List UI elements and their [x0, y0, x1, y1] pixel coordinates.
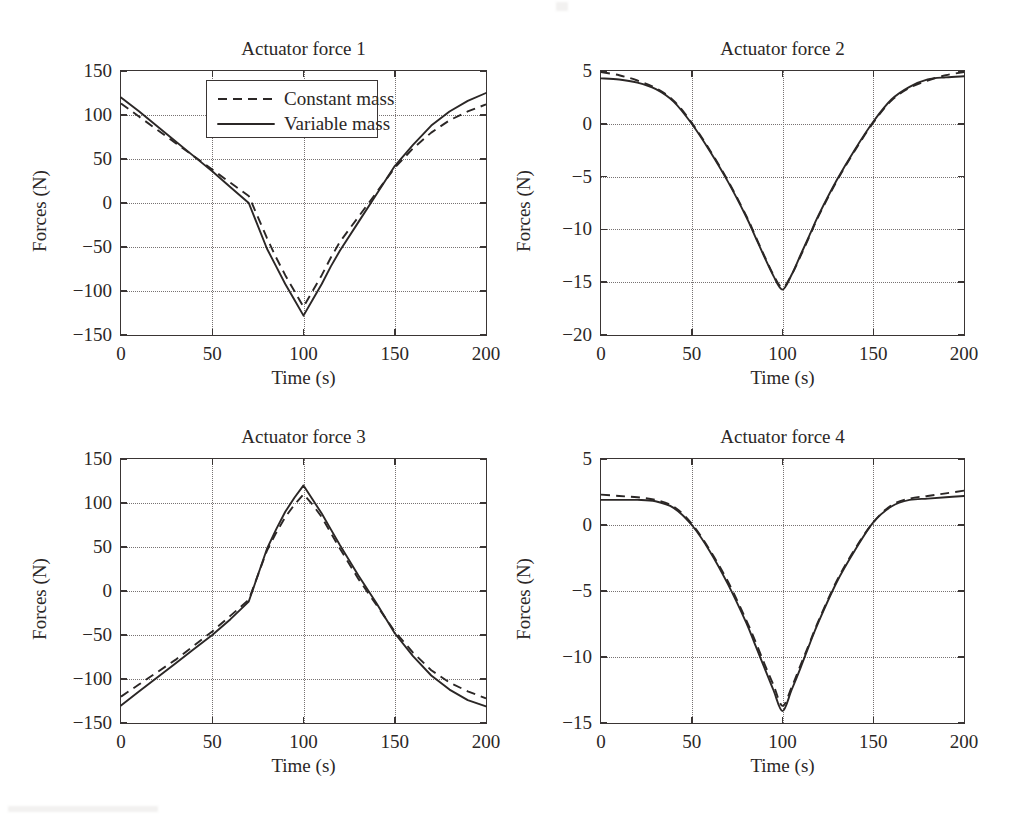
series-layer: [121, 459, 486, 723]
subplot-actuator-force-4: Actuator force 4 Forces (N) Time (s) −15…: [480, 418, 1017, 788]
subplot-actuator-force-2: Actuator force 2 Forces (N) Time (s) −20…: [480, 30, 1017, 400]
y-axis-tick-label: 50: [93, 148, 112, 170]
y-axis-tick-label: −10: [562, 218, 592, 240]
subplot-2-y-axis-title: Forces (N): [513, 141, 535, 281]
x-axis-tick-label: 150: [859, 343, 888, 365]
x-axis-tick-label: 100: [768, 731, 797, 753]
series-solid: [121, 485, 486, 706]
y-axis-tick-label: −150: [73, 712, 112, 734]
subplot-2-plot-area: −20−15−10−505050100150200: [600, 70, 965, 336]
legend-dashed-line-icon: [217, 93, 275, 105]
x-axis-tick-label: 150: [381, 343, 410, 365]
subplot-3-y-axis-title: Forces (N): [29, 529, 51, 669]
x-axis-tick-label: 100: [289, 731, 318, 753]
legend-label-constant-mass: Constant mass: [284, 89, 394, 108]
series-solid: [601, 496, 964, 711]
x-axis-tick-label: 0: [596, 343, 606, 365]
series-dashed: [601, 72, 964, 287]
x-axis-tick-label: 0: [116, 343, 126, 365]
legend-entry-variable-mass: Variable mass: [217, 111, 367, 136]
series-dashed: [121, 494, 486, 698]
y-axis-tick-label: −50: [82, 624, 112, 646]
series-dashed: [601, 491, 964, 706]
subplot-1-y-axis-title: Forces (N): [29, 141, 51, 281]
y-axis-tick-label: −15: [562, 712, 592, 734]
x-axis-tick-label: 50: [682, 343, 701, 365]
scan-artifact: [8, 806, 158, 812]
y-axis-tick-label: 0: [583, 113, 593, 135]
scan-artifact: [556, 2, 568, 11]
subplot-4-x-axis-title: Time (s): [600, 755, 965, 777]
subplot-actuator-force-3: Actuator force 3 Forces (N) Time (s) −15…: [0, 418, 500, 788]
subplot-3-title: Actuator force 3: [120, 426, 487, 448]
x-axis-tick-label: 0: [596, 731, 606, 753]
x-axis-tick-label: 50: [682, 731, 701, 753]
y-axis-tick-label: 0: [583, 514, 593, 536]
series-solid: [601, 76, 964, 289]
y-axis-tick-label: 150: [84, 448, 113, 470]
y-axis-tick-label: 5: [583, 448, 593, 470]
y-axis-tick-label: −100: [73, 668, 112, 690]
y-axis-tick-label: −20: [562, 324, 592, 346]
series-layer: [601, 459, 964, 723]
y-axis-tick-label: 5: [583, 60, 593, 82]
legend-solid-line-icon: [217, 118, 275, 130]
subplot-3-x-axis-title: Time (s): [120, 755, 487, 777]
subplot-2-title: Actuator force 2: [600, 38, 965, 60]
legend-label-variable-mass: Variable mass: [284, 114, 390, 133]
y-axis-tick-label: −50: [82, 236, 112, 258]
y-axis-tick-label: 150: [84, 60, 113, 82]
subplot-4-plot-area: −15−10−505050100150200: [600, 458, 965, 724]
x-axis-tick-label: 100: [768, 343, 797, 365]
x-axis-tick-label: 0: [116, 731, 126, 753]
x-axis-tick-label: 50: [203, 343, 222, 365]
subplot-4-y-axis-title: Forces (N): [513, 529, 535, 669]
x-axis-tick-label: 150: [381, 731, 410, 753]
actuator-forces-figure: Actuator force 1 Forces (N) Time (s) −15…: [0, 0, 1017, 827]
y-axis-tick-label: 0: [103, 192, 113, 214]
legend: Constant mass Variable mass: [206, 80, 378, 138]
legend-entry-constant-mass: Constant mass: [217, 86, 367, 111]
y-axis-tick-label: −15: [562, 271, 592, 293]
y-axis-tick-label: −150: [73, 324, 112, 346]
subplot-1-title: Actuator force 1: [120, 38, 487, 60]
subplot-1-x-axis-title: Time (s): [120, 367, 487, 389]
x-axis-tick-label: 150: [859, 731, 888, 753]
x-axis-tick-label: 50: [203, 731, 222, 753]
x-axis-tick-label: 200: [950, 343, 979, 365]
subplot-3-plot-area: −150−100−50050100150050100150200: [120, 458, 487, 724]
y-axis-tick-label: 50: [93, 536, 112, 558]
x-axis-tick-label: 100: [289, 343, 318, 365]
y-axis-tick-label: −5: [572, 166, 592, 188]
y-axis-tick-label: 100: [84, 492, 113, 514]
y-axis-tick-label: 100: [84, 104, 113, 126]
y-axis-tick-label: 0: [103, 580, 113, 602]
x-axis-tick-label: 200: [950, 731, 979, 753]
y-axis-tick-label: −10: [562, 646, 592, 668]
y-axis-tick-label: −5: [572, 580, 592, 602]
subplot-2-x-axis-title: Time (s): [600, 367, 965, 389]
subplot-4-title: Actuator force 4: [600, 426, 965, 448]
series-layer: [601, 71, 964, 335]
y-axis-tick-label: −100: [73, 280, 112, 302]
